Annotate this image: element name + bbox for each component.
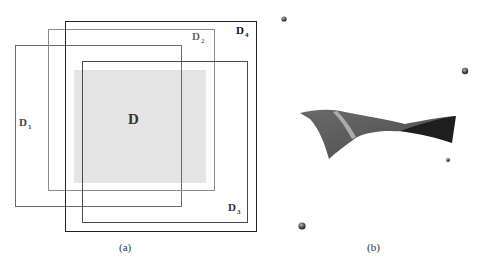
surface-render [0,0,481,267]
sphere-top-right [462,68,468,74]
caption-b: (b) [367,242,380,253]
sphere-top-left [281,16,286,21]
sphere-bottom-left [298,222,305,229]
twisted-surface [300,110,456,159]
figure: D1 D2 D3 D4 D (a) [0,0,481,267]
sphere-mid-right [446,158,450,162]
